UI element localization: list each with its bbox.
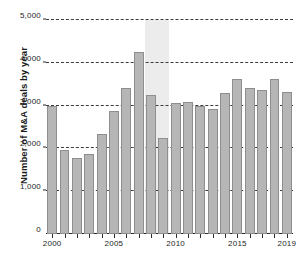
bar-2017 <box>257 90 267 234</box>
x-axis-tick-2007 <box>139 234 140 238</box>
bar-series <box>46 20 293 234</box>
bar-2006 <box>121 88 131 234</box>
bar-2001 <box>60 150 70 234</box>
x-axis-tick-2014 <box>225 234 226 238</box>
x-axis-tick-2008 <box>151 234 152 238</box>
x-axis-tick-2019 <box>287 234 288 238</box>
x-axis-tick-2006 <box>126 234 127 238</box>
x-axis-tick-label: 2005 <box>105 239 124 248</box>
x-axis-tick-2005 <box>114 234 115 238</box>
x-axis-tick-2011 <box>188 234 189 238</box>
x-axis-tick-2000 <box>52 234 53 238</box>
bar-2013 <box>208 109 218 234</box>
x-axis-tick-label: 2000 <box>43 239 62 248</box>
x-axis-tick-2002 <box>77 234 78 238</box>
y-axis-tick-label: 4,000 <box>20 53 41 62</box>
bar-2000 <box>47 106 57 234</box>
x-axis-tick-2017 <box>262 234 263 238</box>
bar-2008 <box>146 95 156 234</box>
x-axis-tick-2013 <box>213 234 214 238</box>
bar-2002 <box>72 158 82 234</box>
bar-2010 <box>171 103 181 234</box>
x-axis-tick-2001 <box>65 234 66 238</box>
x-axis-tick-label: 2015 <box>228 239 247 248</box>
bar-2014 <box>220 93 230 234</box>
x-axis-tick-2009 <box>163 234 164 238</box>
bar-2015 <box>232 79 242 234</box>
x-axis-tick-label: 2019 <box>278 239 297 248</box>
bar-2004 <box>97 134 107 234</box>
chart-container: Number of M&A deals by year 01,0002,0003… <box>0 0 305 262</box>
y-axis-tick-label: 1,000 <box>20 182 41 191</box>
x-axis-tick-2016 <box>250 234 251 238</box>
x-axis-tick-2015 <box>237 234 238 238</box>
x-axis-tick-2004 <box>102 234 103 238</box>
y-axis-tick-label: 2,000 <box>20 139 41 148</box>
bar-2005 <box>109 111 119 234</box>
y-axis-tick-label: 3,000 <box>20 96 41 105</box>
bar-2003 <box>84 154 94 234</box>
y-axis-tick-label: 0 <box>36 225 41 234</box>
bar-2019 <box>282 92 292 234</box>
bar-2018 <box>270 79 280 234</box>
bar-2009 <box>158 138 168 234</box>
bar-2016 <box>245 88 255 234</box>
x-axis-tick-2003 <box>89 234 90 238</box>
x-axis-tick-2012 <box>200 234 201 238</box>
y-axis-tick-label: 5,000 <box>20 11 41 20</box>
x-axis-tick-2018 <box>274 234 275 238</box>
plot-area: 01,0002,0003,0004,0005,000 2000200520102… <box>46 20 293 234</box>
x-axis-tick-label: 2010 <box>166 239 185 248</box>
bar-2007 <box>134 52 144 234</box>
x-axis-tick-2010 <box>176 234 177 238</box>
bar-2012 <box>195 106 205 234</box>
bar-2011 <box>183 102 193 234</box>
